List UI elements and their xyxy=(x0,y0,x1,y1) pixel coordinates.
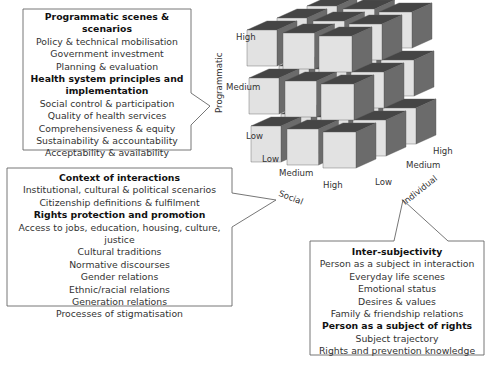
list-item: Government investment xyxy=(23,48,191,60)
social-level-high: High xyxy=(323,180,343,190)
section-heading: Context of interactions xyxy=(7,172,232,184)
list-item: Subject trajectory xyxy=(310,333,484,345)
social-level-medium: Medium xyxy=(279,168,313,178)
programmatic-level-medium: Medium xyxy=(226,82,260,92)
section-heading: implementation xyxy=(23,85,191,97)
list-item: Generation relations xyxy=(7,296,232,308)
list-item: Normative discourses xyxy=(7,259,232,271)
list-item: Social control & participation xyxy=(23,98,191,110)
list-item: Policy & technical mobilisation xyxy=(23,36,191,48)
list-item: Sustainability & accountability xyxy=(23,135,191,147)
individual-level-medium: Medium xyxy=(406,160,440,170)
section-heading: Person as a subject of rights xyxy=(310,320,484,332)
list-item: Rights and prevention knowledge xyxy=(310,345,484,357)
list-item: Emotional status xyxy=(310,283,484,295)
list-item: Comprehensiveness & equity xyxy=(23,123,191,135)
cube-face xyxy=(285,81,317,117)
list-item: Quality of health services xyxy=(23,110,191,122)
cube-face xyxy=(283,33,315,69)
programmatic-box-text: Programmatic scenes & scenariosPolicy & … xyxy=(23,11,191,160)
cube-face xyxy=(319,36,352,72)
section-heading: Rights protection and promotion xyxy=(7,209,232,221)
list-item: Planning & evaluation xyxy=(23,61,191,73)
list-item: Cultural traditions xyxy=(7,246,232,258)
list-item: Family & friendship relations xyxy=(310,308,484,320)
cube-face xyxy=(287,129,319,165)
individual-level-high: High xyxy=(433,146,453,156)
axis-title-programmatic: Programmatic xyxy=(214,53,224,113)
section-heading: Health system principles and xyxy=(23,73,191,85)
social-level-low: Low xyxy=(262,154,279,164)
programmatic-level-low: Low xyxy=(246,131,263,141)
section-heading: Programmatic scenes & scenarios xyxy=(23,11,191,36)
individual-level-low: Low xyxy=(375,177,392,187)
list-item: Gender relations xyxy=(7,271,232,283)
cube-face xyxy=(321,84,354,120)
cube-face xyxy=(323,132,356,168)
list-item: Institutional, cultural & political scen… xyxy=(7,184,232,196)
list-item: Everyday life scenes xyxy=(310,271,484,283)
list-item: Desires & values xyxy=(310,296,484,308)
social-box-text: Context of interactionsInstitutional, cu… xyxy=(7,172,232,321)
list-item: Citizenship definitions & fulfilment xyxy=(7,197,232,209)
list-item: Ethnic/racial relations xyxy=(7,284,232,296)
programmatic-level-high: High xyxy=(236,32,256,42)
list-item: Access to jobs, education, housing, cult… xyxy=(7,222,232,247)
list-item: Acceptability & availability xyxy=(23,147,191,159)
list-item: Processes of stigmatisation xyxy=(7,308,232,320)
list-item: Person as a subject in interaction xyxy=(310,258,484,270)
individual-box-text: Inter-subjectivityPerson as a subject in… xyxy=(310,246,484,358)
section-heading: Inter-subjectivity xyxy=(310,246,484,258)
3x3x3-cube xyxy=(247,0,436,168)
